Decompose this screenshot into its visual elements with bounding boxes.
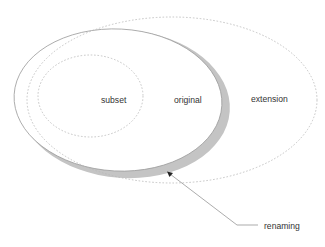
renaming-callout [167, 172, 258, 226]
subset-label: subset [101, 95, 127, 105]
arrowhead-icon [167, 172, 173, 178]
renaming-label: renaming [264, 221, 300, 231]
set-diagram: subset original extension renaming [0, 0, 325, 247]
extension-label: extension [251, 94, 288, 104]
callout-line [170, 174, 258, 225]
original-label: original [174, 95, 202, 105]
